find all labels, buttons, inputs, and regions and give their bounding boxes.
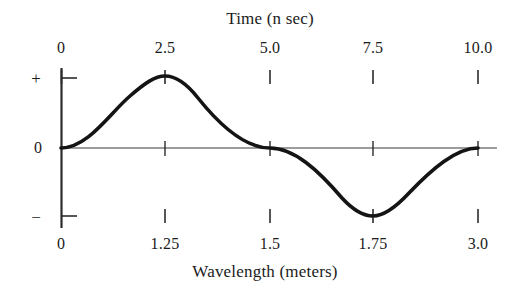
top-axis-title: Time (n sec) (226, 10, 314, 27)
top-tick-label-2: 5.0 (260, 40, 281, 56)
y-axis-positive-label: + (31, 70, 41, 87)
wave-figure: Time (n sec) 0 2.5 5.0 7.5 10.0 + 0 − 0 … (0, 0, 520, 296)
bottom-tick-label-0: 0 (57, 236, 65, 252)
y-axis-negative-label: − (31, 209, 41, 226)
top-tick-label-4: 10.0 (464, 40, 493, 56)
bottom-tick-label-4: 3.0 (468, 236, 489, 252)
bottom-tick-label-1: 1.25 (151, 236, 180, 252)
y-axis-zero-label: 0 (34, 140, 42, 156)
bottom-tick-label-2: 1.5 (260, 236, 281, 252)
top-tick-label-3: 7.5 (363, 40, 384, 56)
bottom-axis-title: Wavelength (meters) (192, 263, 337, 280)
top-tick-label-1: 2.5 (155, 40, 176, 56)
bottom-tick-label-3: 1.75 (359, 236, 388, 252)
top-tick-label-0: 0 (57, 40, 65, 56)
